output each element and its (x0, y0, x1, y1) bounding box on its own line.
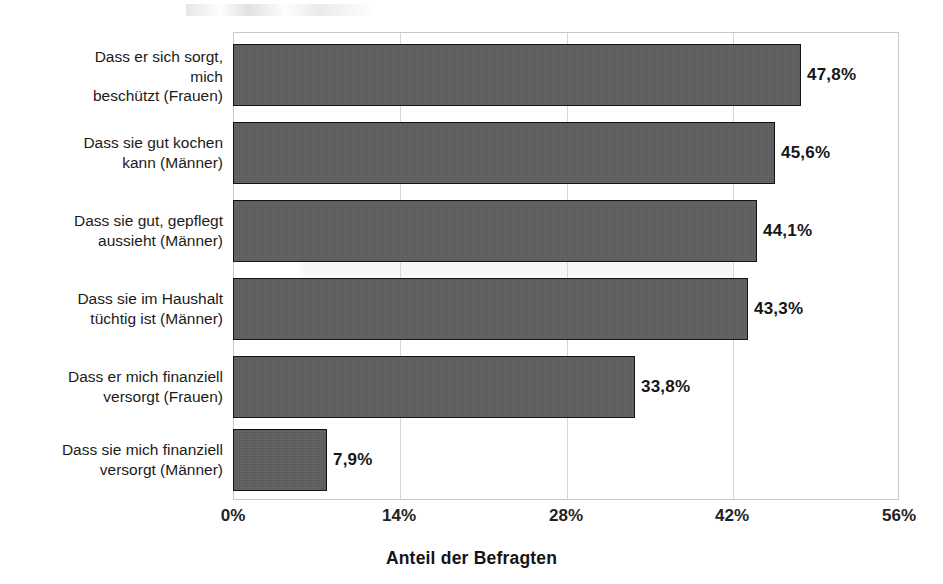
category-label-3: Dass sie im Haushalt tüchtig ist (Männer… (0, 289, 223, 328)
category-label-0: Dass er sich sorgt, mich beschützt (Frau… (0, 47, 223, 106)
bar-0[interactable] (233, 44, 801, 106)
bar-5[interactable] (233, 429, 327, 491)
bar-row: 47,8% (233, 44, 899, 106)
bar-value-1: 45,6% (781, 143, 830, 163)
category-label-1: Dass sie gut kochen kann (Männer) (0, 133, 223, 172)
bar-value-0: 47,8% (807, 65, 856, 85)
bar-4[interactable] (233, 356, 635, 418)
bar-1[interactable] (233, 122, 775, 184)
xtick-4: 56% (882, 506, 916, 526)
category-label-4: Dass er mich finanziell versorgt (Frauen… (0, 367, 223, 406)
bar-value-4: 33,8% (641, 377, 690, 397)
bar-row: 44,1% (233, 200, 899, 262)
xtick-0: 0% (221, 506, 246, 526)
bar-3[interactable] (233, 278, 748, 340)
xtick-1: 14% (382, 506, 416, 526)
bar-chart: 47,8% 45,6% 44,1% 43,3% 33,8% 7,9% Dass … (0, 0, 943, 584)
bar-2[interactable] (233, 200, 757, 262)
x-axis-title: Anteil der Befragten (0, 548, 943, 569)
xtick-2: 28% (549, 506, 583, 526)
category-label-5: Dass sie mich finanziell versorgt (Männe… (0, 440, 223, 479)
xtick-3: 42% (715, 506, 749, 526)
bar-value-3: 43,3% (754, 299, 803, 319)
scan-artifact-top (186, 4, 376, 16)
bar-row: 33,8% (233, 356, 899, 418)
bar-row: 45,6% (233, 122, 899, 184)
category-label-2: Dass sie gut, gepflegt aussieht (Männer) (0, 211, 223, 250)
bar-row: 43,3% (233, 278, 899, 340)
bar-value-2: 44,1% (763, 221, 812, 241)
bar-row: 7,9% (233, 429, 899, 491)
bar-value-5: 7,9% (333, 450, 373, 470)
